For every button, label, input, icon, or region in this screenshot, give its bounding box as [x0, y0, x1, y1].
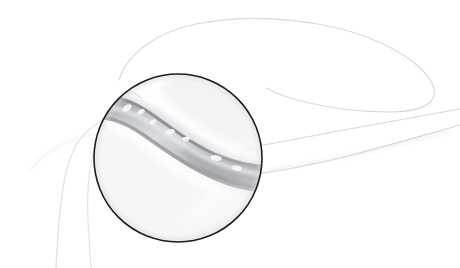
illustration-canvas: [0, 0, 460, 268]
anatomical-illustration: [0, 0, 460, 268]
